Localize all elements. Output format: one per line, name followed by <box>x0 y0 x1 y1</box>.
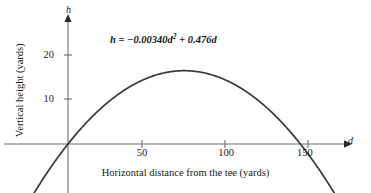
y-tick-label-10: 10 <box>36 94 54 105</box>
equation-linear-coefficient: 0.476 <box>188 34 212 45</box>
equation-equals: = <box>116 34 127 45</box>
x-tick-label-50: 50 <box>131 148 153 159</box>
equation-plus: + <box>177 34 188 45</box>
x-axis-caption: Horizontal distance from the tee (yards) <box>0 168 371 179</box>
y-axis-caption: Vertical height (yards) <box>15 25 26 155</box>
x-tick-label-150: 150 <box>297 148 323 159</box>
y-tick-label-20: 20 <box>36 50 54 61</box>
golf-trajectory-figure: h d 50 100 150 20 10 h = −0.00340d2 + 0.… <box>0 0 371 193</box>
x-axis-symbol: d <box>348 136 353 146</box>
plot-canvas <box>0 0 371 193</box>
equation-linear-variable: d <box>211 34 216 45</box>
equation-quadratic-coefficient: −0.00340 <box>127 34 168 45</box>
equation-annotation: h = −0.00340d2 + 0.476d <box>110 35 217 46</box>
y-axis-arrowhead <box>64 14 71 22</box>
y-axis-symbol: h <box>66 5 71 15</box>
x-tick-label-100: 100 <box>213 148 239 159</box>
